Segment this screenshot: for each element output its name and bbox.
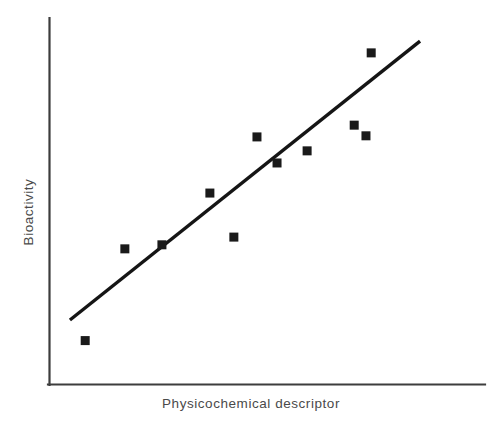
data-point-marker: [157, 240, 166, 249]
scatter-plot-canvas: [0, 0, 502, 421]
chart-figure: Bioactivity Physicochemical descriptor: [0, 0, 502, 421]
data-point-marker: [350, 121, 359, 130]
x-axis-label: Physicochemical descriptor: [0, 396, 502, 411]
data-point-marker: [367, 48, 376, 57]
axes-group: [48, 18, 485, 385]
trend-line-group: [70, 41, 420, 320]
y-axis-label: Bioactivity: [21, 179, 36, 246]
data-point-marker: [273, 158, 282, 167]
data-point-marker: [205, 189, 214, 198]
data-point-marker: [303, 146, 312, 155]
data-point-marker: [361, 131, 370, 140]
regression-line: [70, 41, 420, 320]
data-point-marker: [120, 244, 129, 253]
data-point-marker: [229, 233, 238, 242]
data-point-marker: [81, 336, 90, 345]
data-points-group: [81, 48, 376, 345]
data-point-marker: [252, 132, 261, 141]
